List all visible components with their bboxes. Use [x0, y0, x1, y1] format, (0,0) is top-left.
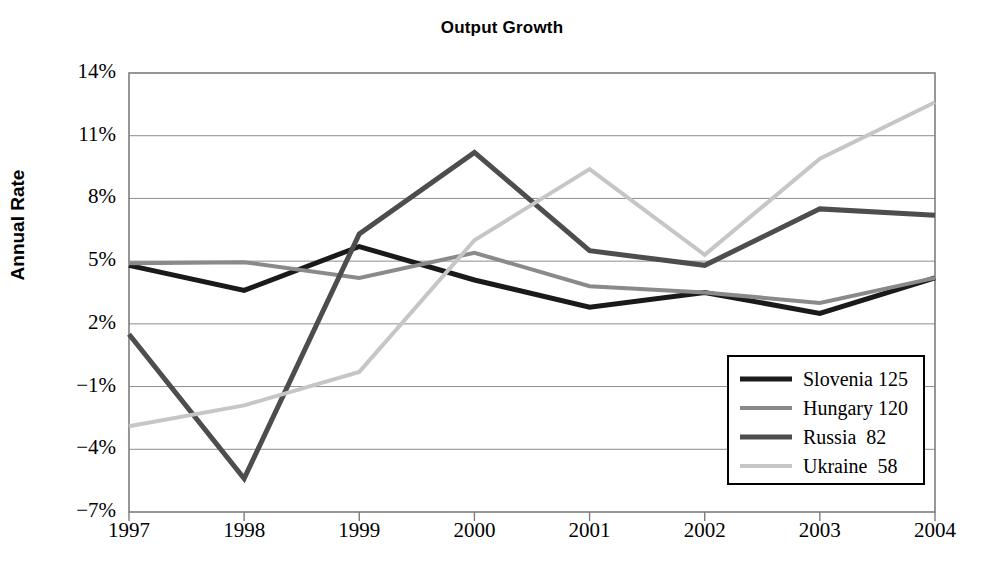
- y-tick-label: 14%: [24, 59, 116, 84]
- legend-swatch-hungary-icon: [740, 402, 792, 414]
- x-tick-label: 2002: [650, 518, 760, 543]
- legend-swatch-slovenia-icon: [740, 373, 792, 385]
- x-tick-label: 1998: [189, 518, 299, 543]
- y-tick-label: 8%: [24, 184, 116, 209]
- y-tick-label: 2%: [24, 310, 116, 335]
- y-tick-label: −1%: [24, 373, 116, 398]
- legend-label-ukraine: Ukraine 58: [803, 456, 897, 476]
- x-tick-label: 2001: [535, 518, 645, 543]
- x-tick-label: 1997: [74, 518, 184, 543]
- legend-label-russia: Russia 82: [803, 427, 886, 447]
- legend-item[interactable]: Ukraine 58: [729, 451, 923, 480]
- x-tick-label: 2004: [880, 518, 990, 543]
- x-tick-label: 1999: [304, 518, 414, 543]
- y-tick-label: 5%: [24, 247, 116, 272]
- chart-legend[interactable]: Slovenia 125 Hungary 120 Russia 82 Ukrai…: [727, 355, 925, 485]
- x-tick-label: 2003: [765, 518, 875, 543]
- chart-figure: Output Growth Annual Rate 14%11%8%5%2%−1…: [0, 0, 1004, 568]
- legend-item[interactable]: Hungary 120: [729, 393, 923, 422]
- y-tick-label: 11%: [24, 122, 116, 147]
- legend-swatch-russia-icon: [740, 431, 792, 443]
- legend-swatch-ukraine-icon: [740, 460, 792, 472]
- legend-item[interactable]: Slovenia 125: [729, 364, 923, 393]
- legend-label-slovenia: Slovenia 125: [803, 369, 908, 389]
- x-tick-label: 2000: [419, 518, 529, 543]
- legend-item[interactable]: Russia 82: [729, 422, 923, 451]
- y-tick-label: −4%: [24, 435, 116, 460]
- legend-label-hungary: Hungary 120: [803, 398, 908, 418]
